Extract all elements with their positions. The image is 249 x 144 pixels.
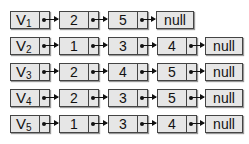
node-value: 4	[158, 38, 186, 54]
pointer-cell	[39, 12, 49, 28]
pointer-cell	[137, 12, 147, 28]
pointer-cell	[137, 116, 147, 132]
list-row: V4235null	[0, 89, 249, 107]
pointer-cell	[186, 90, 196, 106]
list-node: 4	[108, 63, 148, 81]
list-node: 2	[59, 63, 99, 81]
node-value: 3	[109, 38, 137, 54]
arrow-icon	[94, 45, 107, 46]
node-value: 5	[158, 90, 186, 106]
node-value: 2	[60, 90, 88, 106]
arrow-icon	[45, 19, 58, 20]
pointer-cell	[88, 38, 98, 54]
pointer-cell	[39, 116, 49, 132]
vertex-label: V5	[11, 116, 39, 132]
list-node: 4	[157, 115, 197, 133]
pointer-cell	[39, 38, 49, 54]
pointer-cell	[186, 38, 196, 54]
node-value: 1	[60, 116, 88, 132]
list-node: 3	[108, 37, 148, 55]
vertex-head: V1	[10, 11, 50, 29]
vertex-label: V3	[11, 64, 39, 80]
node-value: 3	[109, 90, 137, 106]
arrow-icon	[94, 123, 107, 124]
pointer-cell	[186, 116, 196, 132]
pointer-cell	[39, 90, 49, 106]
list-row: V3245null	[0, 63, 249, 81]
node-value: 4	[158, 116, 186, 132]
node-value: 1	[60, 38, 88, 54]
pointer-cell	[39, 64, 49, 80]
vertex-head: V3	[10, 63, 50, 81]
list-node: 3	[108, 89, 148, 107]
list-node: 5	[157, 89, 197, 107]
list-node: 3	[108, 115, 148, 133]
arrow-icon	[192, 97, 204, 98]
arrow-icon	[192, 71, 204, 72]
arrow-icon	[143, 123, 156, 124]
pointer-cell	[88, 90, 98, 106]
pointer-cell	[88, 116, 98, 132]
arrow-icon	[192, 123, 204, 124]
list-node: 1	[59, 115, 99, 133]
null-terminator: null	[205, 115, 243, 133]
vertex-head: V5	[10, 115, 50, 133]
arrow-icon	[94, 71, 107, 72]
list-node: 5	[108, 11, 148, 29]
list-row: V5134null	[0, 115, 249, 133]
arrow-icon	[94, 19, 107, 20]
node-value: 2	[60, 12, 88, 28]
vertex-label: V4	[11, 90, 39, 106]
null-terminator: null	[156, 11, 194, 29]
list-node: 2	[59, 89, 99, 107]
node-value: 3	[109, 116, 137, 132]
vertex-label: V1	[11, 12, 39, 28]
list-node: 1	[59, 37, 99, 55]
vertex-head: V2	[10, 37, 50, 55]
node-value: 4	[109, 64, 137, 80]
null-terminator: null	[205, 63, 243, 81]
vertex-label: V2	[11, 38, 39, 54]
list-node: 4	[157, 37, 197, 55]
vertex-head: V4	[10, 89, 50, 107]
list-row: V125null	[0, 11, 249, 29]
arrow-icon	[192, 45, 204, 46]
pointer-cell	[137, 90, 147, 106]
null-terminator: null	[205, 89, 243, 107]
pointer-cell	[137, 38, 147, 54]
null-terminator: null	[205, 37, 243, 55]
arrow-icon	[94, 97, 107, 98]
pointer-cell	[88, 64, 98, 80]
list-node: 2	[59, 11, 99, 29]
node-value: 5	[109, 12, 137, 28]
arrow-icon	[45, 123, 58, 124]
arrow-icon	[143, 45, 156, 46]
pointer-cell	[88, 12, 98, 28]
list-node: 5	[157, 63, 197, 81]
pointer-cell	[186, 64, 196, 80]
arrow-icon	[45, 45, 58, 46]
arrow-icon	[143, 19, 155, 20]
arrow-icon	[143, 97, 156, 98]
pointer-cell	[137, 64, 147, 80]
list-row: V2134null	[0, 37, 249, 55]
arrow-icon	[143, 71, 156, 72]
arrow-icon	[45, 71, 58, 72]
arrow-icon	[45, 97, 58, 98]
node-value: 5	[158, 64, 186, 80]
node-value: 2	[60, 64, 88, 80]
